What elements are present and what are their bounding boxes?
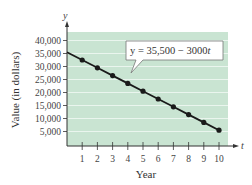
x-tick-label: 6 <box>156 154 161 164</box>
y-tick-label: 15,000 <box>35 101 61 111</box>
y-tick-label: 30,000 <box>35 62 61 72</box>
x-axis-arrow-icon <box>233 144 239 148</box>
x-axis-title: Year <box>136 168 157 180</box>
data-point <box>216 128 221 133</box>
x-tick-label: 7 <box>171 154 176 164</box>
x-tick-label: 9 <box>201 154 206 164</box>
data-point <box>95 65 100 70</box>
data-point <box>186 112 191 117</box>
x-axis-variable: t <box>241 140 244 151</box>
y-axis-ticks: 5,00010,00015,00020,00025,00030,00035,00… <box>35 36 67 137</box>
x-tick-label: 4 <box>125 154 130 164</box>
y-tick-label: 35,000 <box>35 49 61 59</box>
y-tick-label: 25,000 <box>35 75 61 85</box>
data-point <box>80 57 85 62</box>
x-tick-label: 1 <box>80 154 85 164</box>
y-axis-title: Value (in dollars) <box>9 51 22 128</box>
y-tick-label: 20,000 <box>35 88 61 98</box>
data-point <box>125 81 130 86</box>
data-point <box>156 96 161 101</box>
y-axis-arrow-icon <box>65 21 69 27</box>
x-tick-label: 5 <box>141 154 146 164</box>
y-axis-variable: y <box>62 10 68 21</box>
line-chart: 5,00010,00015,00020,00025,00030,00035,00… <box>0 0 252 185</box>
data-point <box>201 120 206 125</box>
data-point <box>171 104 176 109</box>
equation-label: y = 35,500 − 3000t <box>130 45 211 56</box>
y-tick-label: 10,000 <box>35 114 61 124</box>
x-tick-label: 10 <box>214 154 224 164</box>
y-tick-label: 5,000 <box>40 127 62 137</box>
data-point <box>140 89 145 94</box>
x-tick-label: 8 <box>186 154 191 164</box>
data-point <box>110 73 115 78</box>
x-tick-label: 3 <box>110 154 115 164</box>
y-tick-label: 40,000 <box>35 36 61 46</box>
x-tick-label: 2 <box>95 154 100 164</box>
